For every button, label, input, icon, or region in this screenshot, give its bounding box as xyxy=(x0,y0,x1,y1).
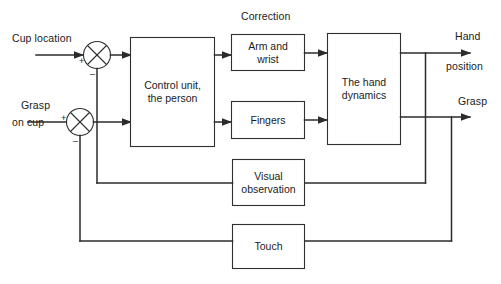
block-arm-and-wrist-rect xyxy=(232,35,305,71)
input-label-grasp-line2: on cup xyxy=(12,116,44,129)
block-fingers-rect xyxy=(232,102,305,139)
input-label-grasp-line1: Grasp xyxy=(21,99,50,112)
sum2-plus-sign: + xyxy=(61,114,66,123)
annotation-correction: Correction xyxy=(241,10,290,23)
summing-junction-1 xyxy=(84,42,111,69)
block-control-unit-rect xyxy=(131,38,215,147)
block-visual-observation-rect xyxy=(233,160,305,206)
sum1-plus-sign: + xyxy=(79,57,84,66)
block-diagram: Cup location Grasp on cup + – + – Contro… xyxy=(0,0,501,284)
wire-touch-to-sum2 xyxy=(80,136,233,242)
sum2-minus-sign: – xyxy=(73,137,78,146)
sum1-minus-sign: – xyxy=(90,70,95,79)
input-label-cup-location: Cup location xyxy=(12,32,72,45)
summing-junction-2 xyxy=(67,109,94,136)
block-hand-dynamics-rect xyxy=(328,34,401,145)
output-label-hand-position-line1: Hand xyxy=(455,30,481,43)
output-label-hand-position-line2: position xyxy=(446,60,483,73)
block-touch-rect xyxy=(233,225,305,269)
output-label-grasp: Grasp xyxy=(458,95,487,108)
